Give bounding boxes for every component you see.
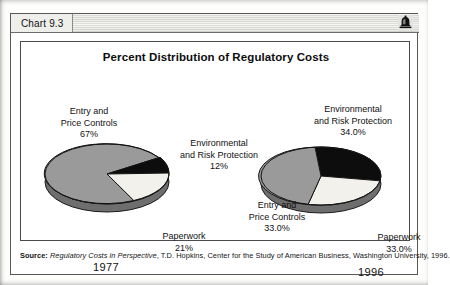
label-percent: 34.0% <box>293 127 413 139</box>
chart-number-tab: Chart 9.3 <box>11 14 73 33</box>
label-percent: 67% <box>35 129 143 141</box>
label-line-2: Price Controls <box>61 118 118 128</box>
card-header-band: Chart 9.3 <box>11 14 419 33</box>
slice-environmental-risk-1996 <box>315 147 381 181</box>
source-title: Regulatory Costs in Perspective <box>50 251 157 260</box>
source-citation: , T.D. Hopkins, Center for the Study of … <box>157 251 450 260</box>
label-line-1: Environmental <box>324 104 382 114</box>
pie-chart-1977 <box>39 130 179 215</box>
bell-icon <box>398 15 413 31</box>
label-environmental-risk-1996: Environmental and Risk Protection 34.0% <box>293 104 413 139</box>
plot-area: Percent Distribution of Regulatory Costs <box>20 41 410 241</box>
label-line-2: and Risk Protection <box>180 150 258 160</box>
label-line-1: Environmental <box>190 138 248 148</box>
label-line-1: Paperwork <box>377 232 420 242</box>
chart-card: Chart 9.3 Percent Distribution of Regula… <box>10 13 418 275</box>
label-entry-price-controls-1977: Entry and Price Controls 67% <box>35 106 143 141</box>
pie-year-1996: 1996 <box>358 266 384 278</box>
label-percent: 33.0% <box>227 223 327 235</box>
chart-number-label: Chart 9.3 <box>21 18 63 29</box>
label-line-1: Entry and <box>70 106 109 116</box>
pie-year-1977: 1977 <box>93 261 119 273</box>
source-label: Source: <box>20 251 48 260</box>
source-note: Source: Regulatory Costs in Perspective,… <box>20 251 412 261</box>
label-line-1: Paperwork <box>162 231 205 241</box>
label-line-2: and Risk Protection <box>314 116 392 126</box>
chart-title: Percent Distribution of Regulatory Costs <box>21 51 411 63</box>
label-entry-price-controls-1996: Entry and Price Controls 33.0% <box>227 200 327 235</box>
label-line-2: Price Controls <box>249 212 306 222</box>
label-line-1: Entry and <box>258 200 297 210</box>
